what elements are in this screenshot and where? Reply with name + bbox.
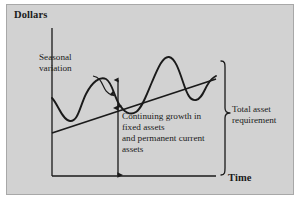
total-asset-brace [221, 61, 230, 175]
y-axis-label: Dollars [14, 9, 47, 21]
permanent-growth-label: Continuing growth in fixed assets and pe… [122, 111, 205, 154]
seasonal-variation-label: Seasonal variation [39, 52, 72, 74]
asset-requirement-chart [0, 0, 301, 204]
total-asset-requirement-label: Total asset requirement [232, 104, 276, 126]
figure-page: Dollars Time Seasonal variation Continui… [0, 0, 301, 204]
x-axis-label: Time [228, 172, 252, 184]
